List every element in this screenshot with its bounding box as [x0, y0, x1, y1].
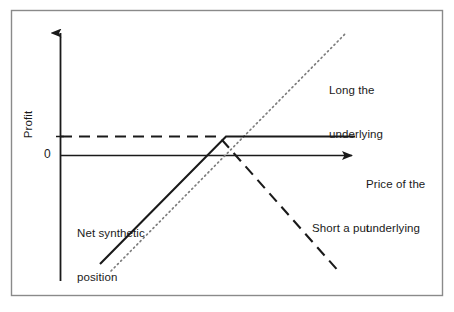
x-axis-label-line1: Price of the [366, 177, 425, 192]
annotation-net-synthetic-position: Net synthetic position [77, 197, 145, 312]
annotation-long-the-underlying: Long the underlying [329, 54, 383, 170]
y-axis-label: Profit [22, 93, 35, 157]
annotation-long-the-underlying-line1: Long the [329, 83, 383, 98]
option-payoff-figure: Profit 0 Price of the underlying Long th… [0, 0, 454, 312]
series-long-the-underlying [111, 33, 346, 271]
annotation-short-a-put: Short a put [312, 221, 369, 236]
annotation-net-synthetic-position-line1: Net synthetic [77, 226, 145, 241]
annotation-long-the-underlying-line2: underlying [329, 127, 383, 142]
origin-tick-label: 0 [44, 147, 51, 161]
annotation-net-synthetic-position-line2: position [77, 270, 145, 285]
x-axis-label-line2: underlying [366, 221, 425, 236]
